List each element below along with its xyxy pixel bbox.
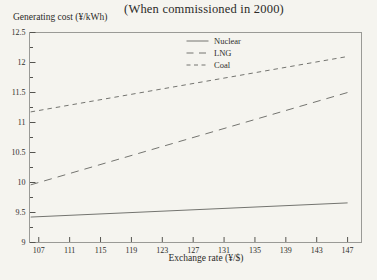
y-tick-label: 12 bbox=[18, 58, 26, 67]
plot-svg: 99.51010.51111.51212.5107111115119123127… bbox=[0, 0, 377, 280]
legend-label-lng: LNG bbox=[214, 48, 231, 58]
series-line-lng bbox=[31, 93, 348, 185]
chart-container: (When commissioned in 2000) Generating c… bbox=[0, 0, 377, 280]
plot-frame bbox=[30, 33, 362, 243]
x-tick-label: 119 bbox=[126, 246, 138, 255]
x-tick-label: 147 bbox=[342, 246, 354, 255]
x-tick-label: 111 bbox=[64, 246, 75, 255]
y-tick-label: 9 bbox=[22, 238, 26, 247]
legend-label-nuclear: Nuclear bbox=[214, 36, 241, 46]
y-tick-label: 12.5 bbox=[12, 28, 26, 37]
x-tick-label: 135 bbox=[249, 246, 261, 255]
x-axis-title: Exchange rate (¥/$) bbox=[169, 253, 244, 263]
y-tick-label: 9.5 bbox=[16, 208, 26, 217]
x-tick-label: 139 bbox=[280, 246, 292, 255]
legend-label-coal: Coal bbox=[214, 60, 231, 70]
y-tick-label: 11.5 bbox=[12, 88, 26, 97]
y-tick-label: 11 bbox=[18, 118, 26, 127]
x-tick-label: 107 bbox=[33, 246, 45, 255]
y-tick-label: 10 bbox=[18, 178, 26, 187]
y-tick-label: 10.5 bbox=[12, 148, 26, 157]
series-line-nuclear bbox=[31, 203, 348, 217]
x-tick-label: 143 bbox=[311, 246, 323, 255]
x-tick-label: 115 bbox=[95, 246, 107, 255]
x-tick-label: 123 bbox=[156, 246, 168, 255]
